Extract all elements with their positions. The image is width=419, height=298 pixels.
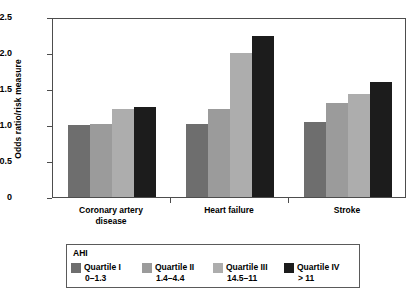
legend-range: > 11 — [297, 273, 340, 284]
legend-range: 1.4–4.4 — [155, 273, 194, 284]
legend-item: Quartile I0–1.3 — [71, 262, 142, 284]
x-axis-category-label-line: Heart failure — [170, 205, 288, 216]
legend-title: AHI — [73, 248, 88, 258]
y-axis-tick-mark — [47, 18, 52, 19]
y-axis-tick-mark — [47, 198, 52, 199]
bar-group — [304, 19, 391, 197]
bar-fill — [68, 125, 90, 197]
bar-fill — [90, 124, 112, 197]
x-axis-category-label: Coronary arterydisease — [52, 205, 170, 227]
y-axis-tick-label: 1.5 — [0, 85, 12, 94]
y-axis-tick-label: 1.0 — [0, 121, 12, 130]
y-axis-tick-mark — [47, 54, 52, 55]
chart-figure: Odds ratio/risk measure 00.51.01.52.02.5… — [0, 0, 419, 298]
y-axis-tick-mark — [47, 162, 52, 163]
x-axis-category-label-line: Stroke — [288, 205, 406, 216]
bar-fill — [186, 124, 208, 197]
legend-label: Quartile I0–1.3 — [84, 262, 121, 284]
chart-legend: AHI Quartile I0–1.3Quartile II1.4–4.4Qua… — [66, 244, 360, 288]
bar-fill — [134, 107, 156, 197]
legend-range: 14.5–11 — [226, 273, 268, 284]
legend-swatch — [71, 263, 81, 273]
legend-label: Quartile IV> 11 — [297, 262, 340, 284]
y-axis-tick-mark — [47, 126, 52, 127]
x-axis-category-label: Stroke — [288, 205, 406, 216]
bar-fill — [112, 109, 134, 197]
y-axis-tick-label: 2.5 — [0, 13, 12, 22]
legend-items: Quartile I0–1.3Quartile II1.4–4.4Quartil… — [71, 262, 355, 284]
legend-item: Quartile III14.5–11 — [213, 262, 284, 284]
legend-label: Quartile III14.5–11 — [226, 262, 268, 284]
bar-fill — [304, 122, 326, 197]
x-axis-tick-mark — [288, 198, 289, 203]
bar-group — [186, 19, 273, 197]
legend-swatch — [142, 263, 152, 273]
x-axis-category-label: Heart failure — [170, 205, 288, 216]
bar-fill — [326, 103, 348, 197]
y-axis-tick-label: 2.0 — [0, 49, 12, 58]
x-axis-category-label-line: Coronary artery — [52, 205, 170, 216]
bar-fill — [348, 94, 370, 197]
legend-label: Quartile II1.4–4.4 — [155, 262, 194, 284]
bar-group — [68, 19, 155, 197]
plot-area — [52, 18, 406, 198]
y-axis-tick-label: 0.5 — [0, 157, 12, 166]
legend-swatch — [284, 263, 294, 273]
x-axis-category-label-line: disease — [52, 216, 170, 227]
bars-container — [53, 19, 405, 197]
legend-item: Quartile II1.4–4.4 — [142, 262, 213, 284]
legend-range: 0–1.3 — [84, 273, 121, 284]
bar-fill — [370, 82, 392, 197]
y-axis-tick-mark — [47, 90, 52, 91]
bar-fill — [252, 36, 274, 197]
y-axis-tick-label: 0 — [0, 193, 12, 202]
y-axis-title: Odds ratio/risk measure — [13, 39, 23, 179]
bar-fill — [208, 109, 230, 197]
bar-fill — [230, 53, 252, 197]
legend-swatch — [213, 263, 223, 273]
x-axis-tick-mark — [170, 198, 171, 203]
legend-item: Quartile IV> 11 — [284, 262, 355, 284]
